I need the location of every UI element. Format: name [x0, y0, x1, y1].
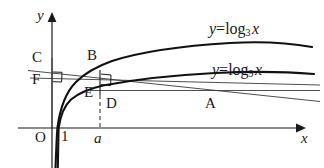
- point-label-O: O: [35, 130, 46, 145]
- curve-label-log3: y=log3 x: [209, 21, 259, 38]
- curve-label-log3-var: x: [252, 20, 259, 37]
- curve-label-log9: y=log9 x: [212, 62, 262, 79]
- y-axis-label: y: [37, 8, 44, 23]
- point-label-A: A: [205, 96, 216, 111]
- point-label-E: E: [84, 85, 93, 100]
- x-axis-label: x: [301, 131, 308, 146]
- point-label-B: B: [87, 48, 97, 63]
- math-figure: y x O 1 a C B F E D A y=log3 x y=log9 x: [0, 0, 324, 168]
- axes-group: [18, 12, 306, 168]
- curve-label-log9-base: 9: [249, 68, 254, 79]
- curve-label-log9-var: x: [255, 61, 262, 78]
- curve-label-log3-eq: =log: [216, 20, 245, 37]
- y-axis-arrowhead: [48, 12, 57, 22]
- x-tick-label-a: a: [94, 131, 102, 146]
- construction-lines-group: [28, 58, 320, 128]
- x-tick-label-1: 1: [61, 129, 69, 144]
- curve-label-log9-eq: =log: [219, 61, 248, 78]
- figure-canvas: [0, 0, 324, 168]
- point-label-F: F: [32, 72, 40, 87]
- point-label-C: C: [32, 50, 42, 65]
- point-label-D: D: [106, 96, 117, 111]
- curve-log9: [58, 72, 314, 168]
- curve-label-log3-base: 3: [246, 27, 251, 38]
